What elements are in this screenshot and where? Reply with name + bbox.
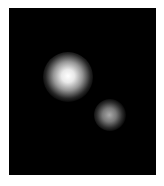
dark-field-image xyxy=(9,8,156,175)
bright-spot xyxy=(43,52,93,102)
dim-spot xyxy=(94,99,126,131)
